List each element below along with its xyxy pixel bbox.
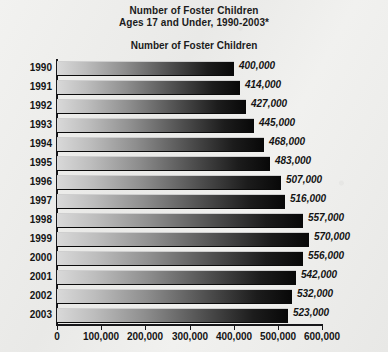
bar[interactable] (57, 251, 303, 266)
bar-value-label: 483,000 (275, 155, 311, 166)
x-axis-title: Number of Foster Children (0, 40, 388, 52)
y-axis-label-1991: 1991 (2, 81, 52, 92)
x-axis-tick (145, 325, 146, 330)
bar-value-label: 507,000 (286, 174, 322, 185)
bar-row: 414,000 (57, 78, 322, 97)
y-axis-label-2001: 2001 (2, 271, 52, 282)
y-axis-label-1995: 1995 (2, 157, 52, 168)
bar[interactable] (57, 232, 309, 247)
bar-chart: Number of Foster Children Ages 17 and Un… (0, 0, 388, 352)
y-axis-label-2000: 2000 (2, 252, 52, 263)
bar-value-label: 556,000 (308, 250, 344, 261)
bar[interactable] (57, 194, 285, 209)
y-axis-label-1999: 1999 (2, 233, 52, 244)
bar-row: 507,000 (57, 173, 322, 192)
bar-value-label: 523,000 (293, 307, 329, 318)
bar-value-label: 516,000 (290, 193, 326, 204)
bar-row: 532,000 (57, 287, 322, 306)
bar[interactable] (57, 289, 292, 304)
x-axis-tick (190, 325, 191, 330)
bar-value-label: 414,000 (245, 79, 281, 90)
bar[interactable] (57, 308, 288, 323)
bar-value-label: 468,000 (269, 136, 305, 147)
bar-value-label: 445,000 (259, 117, 295, 128)
bar-row: 445,000 (57, 116, 322, 135)
bar[interactable] (57, 118, 254, 133)
bar-row: 570,000 (57, 230, 322, 249)
plot-area: 400,000414,000427,000445,000468,000483,0… (57, 59, 322, 324)
y-axis-label-1996: 1996 (2, 176, 52, 187)
x-axis-tick (234, 325, 235, 330)
bar-value-label: 570,000 (314, 231, 350, 242)
y-axis-label-1994: 1994 (2, 138, 52, 149)
chart-title-line-2: Ages 17 and Under, 1990-2003* (0, 17, 388, 29)
chart-title: Number of Foster Children Ages 17 and Un… (0, 5, 388, 29)
bar-value-label: 542,000 (301, 269, 337, 280)
y-axis-label-1992: 1992 (2, 100, 52, 111)
bar-row: 542,000 (57, 268, 322, 287)
y-axis-label-1990: 1990 (2, 62, 52, 73)
x-axis-tick (278, 325, 279, 330)
bar-row: 468,000 (57, 135, 322, 154)
x-axis-tick (322, 325, 323, 330)
bar-value-label: 400,000 (239, 60, 275, 71)
bar[interactable] (57, 99, 246, 114)
bar-row: 516,000 (57, 192, 322, 211)
bar[interactable] (57, 175, 281, 190)
bar-value-label: 532,000 (297, 288, 333, 299)
y-axis-category-labels: 1990199119921993199419951996199719981999… (0, 59, 52, 325)
bar[interactable] (57, 270, 296, 285)
y-axis-label-1998: 1998 (2, 214, 52, 225)
y-axis-label-2003: 2003 (2, 309, 52, 320)
bar-row: 556,000 (57, 249, 322, 268)
bar-row: 523,000 (57, 306, 322, 325)
y-axis-label-1993: 1993 (2, 119, 52, 130)
bar-value-label: 427,000 (251, 98, 287, 109)
bar-row: 400,000 (57, 59, 322, 78)
x-axis-tick-label: 600,000 (292, 331, 352, 342)
bar-row: 557,000 (57, 211, 322, 230)
bar-value-label: 557,000 (308, 212, 344, 223)
bar[interactable] (57, 61, 234, 76)
chart-title-line-1: Number of Foster Children (0, 5, 388, 17)
bar[interactable] (57, 156, 270, 171)
bar-row: 483,000 (57, 154, 322, 173)
bar[interactable] (57, 80, 240, 95)
y-axis-label-1997: 1997 (2, 195, 52, 206)
x-axis-tick (57, 325, 58, 330)
x-axis-tick (101, 325, 102, 330)
bar-row: 427,000 (57, 97, 322, 116)
y-axis-label-2002: 2002 (2, 290, 52, 301)
bar[interactable] (57, 137, 264, 152)
bar[interactable] (57, 213, 303, 228)
